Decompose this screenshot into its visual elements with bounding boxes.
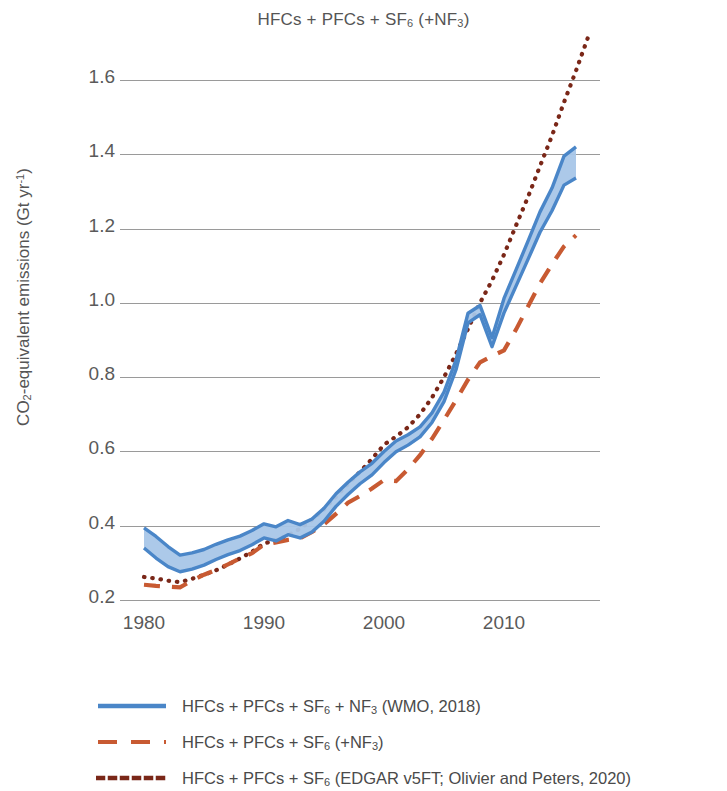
legend-swatch-dashed-line: [96, 734, 168, 750]
y-axis-label-sup: -1: [14, 174, 26, 184]
legend-item-dashed[interactable]: HFCs + PFCs + SF6 (+NF3): [96, 724, 727, 760]
gridline-1.6: [120, 80, 600, 81]
gridline-0.4: [120, 526, 600, 527]
y-tick-1.4: 1.4: [45, 140, 115, 162]
chart-title: HFCs + PFCs + SF6 (+NF3): [0, 10, 727, 30]
legend-item-wmo[interactable]: HFCs + PFCs + SF6 + NF3 (WMO, 2018): [96, 688, 727, 724]
legend-swatch-dotted-line: [96, 770, 168, 786]
x-tick-2010: 2010: [459, 612, 549, 634]
y-tick-0.2: 0.2: [45, 586, 115, 608]
figure-panel: HFCs + PFCs + SF6 (+NF3) CO2-equivalent …: [0, 0, 727, 791]
y-axis-label-suffix: ): [14, 168, 33, 174]
gridline-0.2: [120, 600, 600, 601]
y-tick-1.0: 1.0: [45, 289, 115, 311]
y-tick-0.4: 0.4: [45, 512, 115, 534]
x-tick-1980: 1980: [99, 612, 189, 634]
gridline-1.2: [120, 229, 600, 230]
gridline-1.4: [120, 154, 600, 155]
legend-label-edgar: HFCs + PFCs + SF6 (EDGAR v5FT; Olivier a…: [182, 769, 631, 788]
y-tick-0.8: 0.8: [45, 363, 115, 385]
y-tick-1.6: 1.6: [45, 66, 115, 88]
chart-title-suffix: ): [464, 10, 470, 29]
y-axis-label-sub-2: 2: [21, 394, 33, 400]
x-tick-2000: 2000: [339, 612, 429, 634]
gridline-0.8: [120, 377, 600, 378]
y-axis-label-mid: -equivalent emissions (Gt yr: [14, 184, 33, 395]
legend-swatch-solid-line: [96, 698, 168, 714]
chart-title-mid: (+NF: [413, 10, 457, 29]
legend-label-dashed: HFCs + PFCs + SF6 (+NF3): [182, 733, 384, 752]
plot-area: [120, 80, 600, 600]
gridline-0.6: [120, 451, 600, 452]
x-tick-1990: 1990: [219, 612, 309, 634]
chart-legend: HFCs + PFCs + SF6 + NF3 (WMO, 2018) HFCs…: [96, 688, 727, 791]
gridline-1.0: [120, 303, 600, 304]
y-tick-0.6: 0.6: [45, 437, 115, 459]
y-tick-1.2: 1.2: [45, 215, 115, 237]
y-axis-label-prefix: CO: [14, 400, 33, 426]
chart-title-prefix: HFCs + PFCs + SF: [257, 10, 407, 29]
legend-label-wmo: HFCs + PFCs + SF6 + NF3 (WMO, 2018): [182, 697, 481, 716]
legend-item-edgar[interactable]: HFCs + PFCs + SF6 (EDGAR v5FT; Olivier a…: [96, 760, 727, 791]
y-axis-label: CO2-equivalent emissions (Gt yr-1): [14, 77, 34, 517]
